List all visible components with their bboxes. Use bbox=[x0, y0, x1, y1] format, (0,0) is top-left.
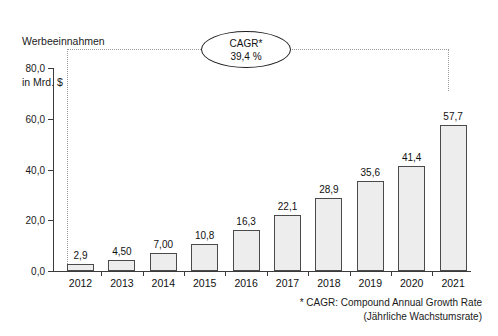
cagr-callout: CAGR* 39,4 % bbox=[201, 31, 291, 68]
x-tick bbox=[184, 271, 185, 276]
cagr-value: 39,4 % bbox=[230, 50, 261, 63]
x-axis-line bbox=[53, 271, 471, 272]
bar-value-2016: 16,3 bbox=[221, 216, 271, 227]
x-tick bbox=[391, 271, 392, 276]
footnote-line-1: * CAGR: Compound Annual Growth Rate bbox=[300, 296, 482, 310]
bar-2018 bbox=[315, 198, 342, 271]
bar-2017 bbox=[274, 215, 301, 271]
chart-footnote: * CAGR: Compound Annual Growth Rate (Jäh… bbox=[300, 296, 482, 324]
y-axis-tick-label: 0,0 bbox=[31, 266, 45, 277]
chart-canvas: Werbeeinnahmen in Mrd. $ 0,020,040,060,0… bbox=[0, 0, 498, 336]
bar-value-2017: 22,1 bbox=[263, 201, 313, 212]
x-tick bbox=[143, 271, 144, 276]
x-tick bbox=[308, 271, 309, 276]
y-tick-0,0 bbox=[48, 271, 54, 272]
bar-value-2015: 10,8 bbox=[180, 230, 230, 241]
x-tick bbox=[267, 271, 268, 276]
bar-2014 bbox=[150, 253, 177, 271]
y-axis-tick-label: 40,0 bbox=[26, 164, 45, 175]
y-tick-20,0 bbox=[48, 220, 54, 221]
y-tick-60,0 bbox=[48, 119, 54, 120]
bar-value-2021: 57,7 bbox=[428, 111, 478, 122]
cagr-guide-top-right bbox=[289, 49, 449, 50]
bar-2021 bbox=[440, 125, 467, 271]
bar-value-2019: 35,6 bbox=[345, 167, 395, 178]
cagr-guide-left bbox=[67, 49, 68, 264]
bar-2016 bbox=[233, 230, 260, 271]
x-tick bbox=[432, 271, 433, 276]
y-axis-title-line-1: Werbeeinnahmen bbox=[22, 35, 105, 49]
y-tick-40,0 bbox=[48, 170, 54, 171]
x-tick bbox=[225, 271, 226, 276]
bar-value-2018: 28,9 bbox=[304, 184, 354, 195]
y-axis-tick-label: 80,0 bbox=[26, 63, 45, 74]
x-tick bbox=[350, 271, 351, 276]
bar-2020 bbox=[398, 166, 425, 271]
cagr-guide-top-left bbox=[67, 49, 203, 50]
y-axis-tick-label: 20,0 bbox=[26, 215, 45, 226]
cagr-label: CAGR* bbox=[230, 37, 263, 50]
bar-2012 bbox=[67, 264, 94, 271]
y-axis-tick-label: 60,0 bbox=[26, 113, 45, 124]
bar-value-2014: 7,00 bbox=[138, 239, 188, 250]
cagr-guide-right bbox=[448, 49, 449, 91]
y-axis-title-line-2: in Mrd. $ bbox=[22, 76, 105, 90]
bar-2013 bbox=[108, 260, 135, 271]
bar-2015 bbox=[191, 244, 218, 271]
y-tick-80,0 bbox=[48, 68, 54, 69]
x-tick bbox=[101, 271, 102, 276]
footnote-line-2: (Jährliche Wachstumsrate) bbox=[300, 310, 482, 324]
bar-value-2020: 41,4 bbox=[387, 152, 437, 163]
bar-2019 bbox=[357, 181, 384, 271]
x-axis-label-2021: 2021 bbox=[428, 277, 478, 289]
